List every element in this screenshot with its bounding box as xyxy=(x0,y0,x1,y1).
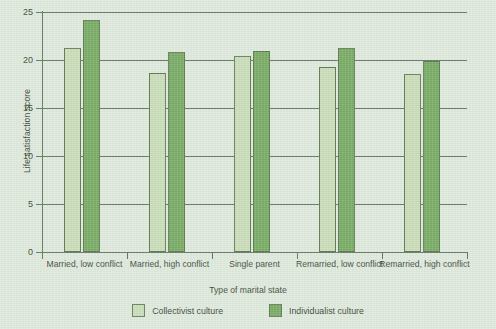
bar-chart: Life satisfaction score 0510152025 Marri… xyxy=(0,0,496,329)
bar-individualist xyxy=(168,52,185,252)
y-axis-tick-label: 25 xyxy=(23,7,33,17)
bar-individualist xyxy=(338,48,355,252)
x-axis-tick xyxy=(42,252,43,259)
y-axis-tick-label: 20 xyxy=(23,55,33,65)
y-axis-tick-label: 10 xyxy=(23,151,33,161)
chart-legend: Collectivist cultureIndividualist cultur… xyxy=(0,304,496,317)
legend-swatch-collectivist xyxy=(132,304,145,317)
bar-individualist xyxy=(423,61,440,252)
x-axis-title: Type of marital state xyxy=(0,285,496,295)
bar-collectivist xyxy=(64,48,81,252)
x-axis-tick xyxy=(297,252,298,259)
legend-label: Collectivist culture xyxy=(152,306,223,316)
bar-collectivist xyxy=(234,56,251,252)
bar-group xyxy=(141,12,226,252)
bar-group xyxy=(226,12,311,252)
legend-item: Individualist culture xyxy=(269,304,364,317)
bar-collectivist xyxy=(404,74,421,252)
x-axis-tick xyxy=(127,252,128,259)
legend-item: Collectivist culture xyxy=(132,304,223,317)
bar-group xyxy=(56,12,141,252)
x-axis-line xyxy=(42,252,467,253)
legend-label: Individualist culture xyxy=(289,306,364,316)
bar-group xyxy=(396,12,481,252)
bar-group xyxy=(311,12,396,252)
bar-collectivist xyxy=(149,73,166,252)
legend-swatch-individualist xyxy=(269,304,282,317)
y-axis-tick-label: 0 xyxy=(28,247,33,257)
bar-series-container xyxy=(42,12,467,252)
x-axis-category-label: Remarried, high conflict xyxy=(373,259,477,270)
y-axis-title: Life satisfaction score xyxy=(22,16,32,246)
y-axis-tick-label: 5 xyxy=(28,199,33,209)
y-axis-tick-label: 15 xyxy=(23,103,33,113)
bar-collectivist xyxy=(319,67,336,252)
x-axis-tick xyxy=(212,252,213,259)
plot-area: 0510152025 xyxy=(42,12,467,252)
x-axis-tick xyxy=(467,252,468,259)
x-axis-tick xyxy=(382,252,383,259)
bar-individualist xyxy=(253,51,270,252)
bar-individualist xyxy=(83,20,100,252)
